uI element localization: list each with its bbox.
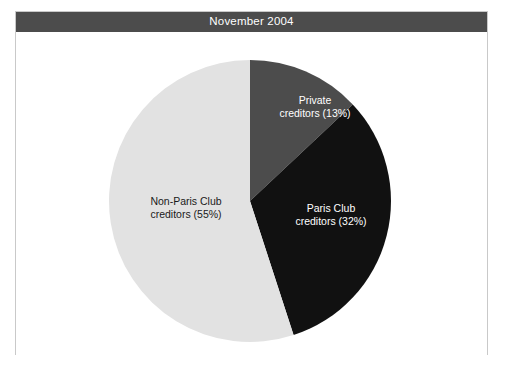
pie-svg <box>16 32 489 355</box>
page-title: November 2004 <box>209 16 293 28</box>
chart-title-bar: November 2004 <box>16 12 487 32</box>
pie-chart: Private creditors (13%) Paris Club credi… <box>16 32 489 355</box>
plot-area: Private creditors (13%) Paris Club credi… <box>16 32 487 355</box>
chart-figure: November 2004 Private creditors (13%) Pa… <box>15 11 488 355</box>
